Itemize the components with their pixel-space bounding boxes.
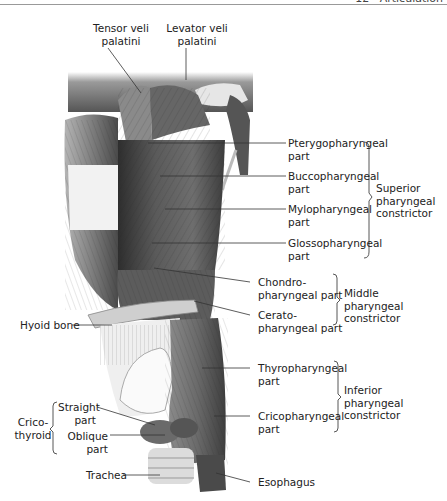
veli-palatini-muscles xyxy=(118,85,210,145)
label-ceratopharyngeal: Cerato- pharyngeal part xyxy=(258,309,342,334)
label-line: part xyxy=(288,183,379,196)
label-line: thyroid xyxy=(14,429,52,442)
label-line: pharyngeal part xyxy=(258,322,342,335)
label-line: pharyngeal part xyxy=(258,289,342,302)
label-line: part xyxy=(258,423,344,436)
label-glossopharyngeal: Glossopharyngeal part xyxy=(288,237,382,262)
label-trachea: Trachea xyxy=(86,469,127,482)
trachea xyxy=(148,448,194,484)
label-line: Pterygopharyngeal xyxy=(288,137,388,150)
label-inferior-constrictor: Inferior pharyngeal constrictor xyxy=(344,384,403,422)
label-line: Mylopharyngeal xyxy=(288,203,372,216)
label-line: Cricopharyngeal xyxy=(258,410,344,423)
label-mylopharyngeal: Mylopharyngeal part xyxy=(288,203,372,228)
label-line: Levator veli xyxy=(152,22,242,35)
label-line: part xyxy=(288,150,388,163)
label-line: Glossopharyngeal xyxy=(288,237,382,250)
label-line: Cerato- xyxy=(258,309,342,322)
label-chondropharyngeal: Chondro- pharyngeal part xyxy=(258,276,342,301)
label-line: Chondro- xyxy=(258,276,342,289)
label-line: constrictor xyxy=(344,409,403,422)
label-line: part xyxy=(288,250,382,263)
label-line: pharyngeal xyxy=(344,300,403,313)
label-line: Thyropharyngeal xyxy=(258,362,347,375)
label-line: Crico- xyxy=(14,416,52,429)
label-line: Middle xyxy=(344,287,403,300)
label-line: pharyngeal xyxy=(376,195,435,208)
label-line: Straight xyxy=(58,401,96,414)
label-cricopharyngeal: Cricopharyngeal part xyxy=(258,410,344,435)
label-line: part xyxy=(58,443,108,456)
label-line: Buccopharyngeal xyxy=(288,170,379,183)
label-oblique-part: Oblique part xyxy=(58,430,108,455)
label-line: part xyxy=(258,375,347,388)
label-superior-constrictor: Superior pharyngeal constrictor xyxy=(376,182,435,220)
label-esophagus: Esophagus xyxy=(258,476,315,489)
inferior-constrictor xyxy=(165,318,228,465)
superior-constrictor xyxy=(118,140,225,270)
label-line: constrictor xyxy=(376,207,435,220)
label-line: Inferior xyxy=(344,384,403,397)
esophagus xyxy=(196,455,226,492)
label-line: pharyngeal xyxy=(344,397,403,410)
label-line: Oblique xyxy=(58,430,108,443)
label-cricothyroid: Crico- thyroid xyxy=(14,416,52,441)
label-line: palatini xyxy=(152,35,242,48)
label-line: constrictor xyxy=(344,312,403,325)
label-pterygopharyngeal: Pterygopharyngeal part xyxy=(288,137,388,162)
lateral-muscle-mass xyxy=(64,114,118,310)
label-line: Superior xyxy=(376,182,435,195)
label-hyoid-bone: Hyoid bone xyxy=(20,319,80,332)
label-buccopharyngeal: Buccopharyngeal part xyxy=(288,170,379,195)
label-straight-part: Straight part xyxy=(58,401,96,426)
label-line: part xyxy=(58,414,96,427)
label-line: part xyxy=(288,216,372,229)
label-middle-constrictor: Middle pharyngeal constrictor xyxy=(344,287,403,325)
label-thyropharyngeal: Thyropharyngeal part xyxy=(258,362,347,387)
label-levator-veli-palatini: Levator veli palatini xyxy=(152,22,242,47)
